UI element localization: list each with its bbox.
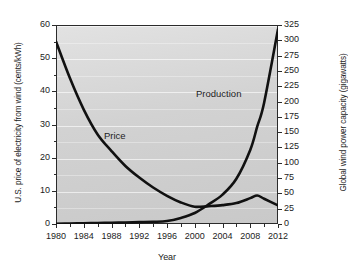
tick-mark xyxy=(54,108,57,109)
tick-mark xyxy=(54,141,57,142)
tick-mark xyxy=(98,224,99,227)
axis-tick-label: 1996 xyxy=(153,232,181,241)
tick-mark xyxy=(56,224,57,228)
axis-tick-label: 200 xyxy=(284,97,314,106)
tick-mark xyxy=(52,91,56,92)
tick-mark xyxy=(54,75,57,76)
axis-tick-label: 60 xyxy=(22,20,50,29)
tick-mark xyxy=(278,40,282,41)
tick-mark xyxy=(278,86,282,87)
tick-mark xyxy=(278,224,279,228)
axis-tick-label: 2008 xyxy=(236,232,264,241)
tick-mark xyxy=(278,147,282,148)
axis-tick-label: 10 xyxy=(22,186,50,195)
tick-mark xyxy=(125,224,126,227)
tick-mark xyxy=(153,224,154,227)
axis-tick-label: 1988 xyxy=(98,232,126,241)
axis-tick-label: 2004 xyxy=(209,232,237,241)
tick-mark xyxy=(278,56,282,57)
production-series-label: Production xyxy=(196,88,241,99)
axis-tick-label: 2012 xyxy=(264,232,292,241)
axis-tick-label: 1992 xyxy=(125,232,153,241)
tick-mark xyxy=(209,224,210,227)
tick-mark xyxy=(278,178,282,179)
series-curves xyxy=(56,25,278,224)
axis-tick-label: 275 xyxy=(284,51,314,60)
tick-mark xyxy=(70,224,71,227)
axis-tick-label: 100 xyxy=(284,158,314,167)
axis-tick-label: 2000 xyxy=(181,232,209,241)
axis-tick-label: 75 xyxy=(284,173,314,182)
tick-mark xyxy=(264,224,265,227)
x-axis-title: Year xyxy=(56,252,278,262)
axis-tick-label: 125 xyxy=(284,142,314,151)
axis-tick-label: 25 xyxy=(284,204,314,213)
axis-tick-label: 0 xyxy=(22,219,50,228)
tick-mark xyxy=(54,174,57,175)
tick-mark xyxy=(52,158,56,159)
axis-tick-label: 1984 xyxy=(70,232,98,241)
tick-mark xyxy=(84,224,85,228)
tick-mark xyxy=(278,102,282,103)
tick-mark xyxy=(278,71,282,72)
axis-tick-label: 1980 xyxy=(42,232,70,241)
axis-tick-label: 40 xyxy=(22,86,50,95)
tick-mark xyxy=(112,224,113,228)
tick-mark xyxy=(52,25,56,26)
price-series-label: Price xyxy=(104,130,126,141)
y-axis-right-title: Global wind power capacity (gigawatts) xyxy=(339,8,348,238)
tick-mark xyxy=(139,224,140,228)
tick-mark xyxy=(52,191,56,192)
price-line xyxy=(56,42,278,207)
axis-tick-label: 0 xyxy=(284,219,314,228)
tick-mark xyxy=(223,224,224,228)
axis-tick-label: 50 xyxy=(22,53,50,62)
tick-mark xyxy=(278,25,282,26)
axis-tick-label: 50 xyxy=(284,188,314,197)
tick-mark xyxy=(195,224,196,228)
axis-tick-label: 175 xyxy=(284,112,314,121)
tick-mark xyxy=(52,125,56,126)
tick-mark xyxy=(236,224,237,227)
axis-tick-label: 30 xyxy=(22,120,50,129)
tick-mark xyxy=(278,132,282,133)
axis-tick-label: 225 xyxy=(284,81,314,90)
tick-mark xyxy=(278,193,282,194)
tick-mark xyxy=(278,117,282,118)
tick-mark xyxy=(54,207,57,208)
tick-mark xyxy=(250,224,251,228)
tick-mark xyxy=(54,42,57,43)
tick-mark xyxy=(52,58,56,59)
tick-mark xyxy=(278,163,282,164)
axis-tick-label: 325 xyxy=(284,20,314,29)
axis-tick-label: 20 xyxy=(22,153,50,162)
tick-mark xyxy=(167,224,168,228)
axis-tick-label: 150 xyxy=(284,127,314,136)
tick-mark xyxy=(278,209,282,210)
axis-tick-label: 300 xyxy=(284,35,314,44)
axis-tick-label: 250 xyxy=(284,66,314,75)
tick-mark xyxy=(181,224,182,227)
